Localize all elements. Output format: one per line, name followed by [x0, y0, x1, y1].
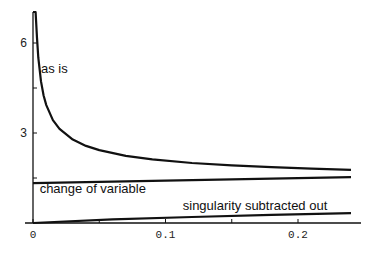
- singularity-subtracted-curve: [33, 213, 351, 223]
- label-change-of-variable: change of variable: [40, 181, 146, 196]
- label-singularity-subtracted-out: singularity subtracted out: [183, 198, 328, 213]
- label-as-is: as is: [41, 61, 68, 76]
- y-tick-label: 6: [20, 36, 27, 50]
- annotations: as ischange of variablesingularity subtr…: [40, 61, 328, 213]
- line-chart: 00.10.2 36 as ischange of variablesingul…: [0, 0, 376, 253]
- x-tick-label: 0.2: [288, 229, 308, 241]
- x-tick-label: 0: [30, 229, 37, 241]
- as-is-curve: [33, 12, 351, 170]
- y-ticks: 36: [20, 36, 37, 178]
- y-tick-label: 3: [20, 126, 27, 140]
- x-tick-label: 0.1: [156, 229, 176, 241]
